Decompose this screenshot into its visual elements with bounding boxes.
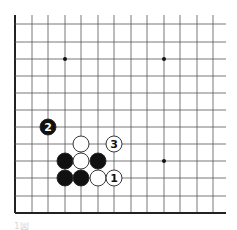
diagram-caption: 1図 [14,222,29,230]
star-point-icon [162,159,166,163]
black-stone [90,153,106,169]
white-stone [90,170,106,186]
star-point-icon [63,57,67,61]
black-stone-2: 2 [40,119,56,135]
white-stone [73,153,89,169]
svg-text:2: 2 [44,121,52,134]
white-stone-3: 3 [106,136,122,152]
go-board: 231 [0,0,237,230]
black-stone [57,153,73,169]
white-stone [73,136,89,152]
svg-text:3: 3 [110,138,118,151]
star-point-icon [162,57,166,61]
white-stone-1: 1 [106,170,122,186]
black-stone [57,170,73,186]
svg-text:1: 1 [110,172,118,185]
black-stone [73,170,89,186]
